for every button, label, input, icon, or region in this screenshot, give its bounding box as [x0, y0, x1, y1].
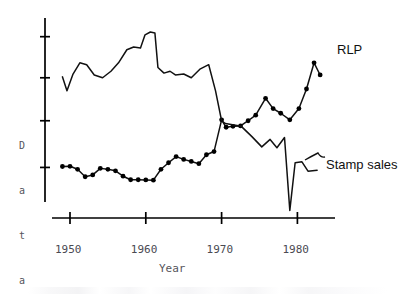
y-axis-title-letter-3: a [14, 273, 30, 288]
y-axis-title-letter-0: D [14, 138, 30, 153]
chart-figure: D a t a 1950 1960 1970 1980 Year RLP Sta… [0, 0, 416, 295]
data-point-0-6 [106, 167, 111, 172]
data-point-0-15 [174, 154, 179, 159]
data-point-0-3 [83, 174, 88, 179]
data-point-0-12 [151, 178, 156, 183]
data-point-0-9 [128, 177, 133, 182]
y-axis-title-letter-2: t [14, 228, 30, 243]
data-point-0-33 [312, 60, 317, 65]
data-point-0-5 [98, 166, 103, 171]
data-point-0-34 [318, 73, 323, 78]
x-tick-label-1950: 1950 [55, 243, 82, 256]
x-tick-label-1980: 1980 [282, 243, 309, 256]
data-point-0-27 [263, 96, 268, 101]
x-axis-title: Year [159, 262, 186, 275]
data-point-0-16 [181, 157, 186, 162]
figure-caption-cropped [28, 287, 388, 294]
data-point-0-1 [68, 164, 73, 169]
data-point-0-32 [304, 87, 309, 92]
y-axis-title: D a t a [14, 108, 30, 295]
data-point-0-18 [196, 161, 201, 166]
x-tick-label-1960: 1960 [131, 243, 158, 256]
data-point-0-14 [166, 160, 171, 165]
data-point-0-0 [60, 164, 65, 169]
data-point-0-17 [189, 159, 194, 164]
data-point-0-8 [121, 174, 126, 179]
data-point-0-22 [224, 125, 229, 130]
data-point-0-25 [246, 118, 251, 123]
data-point-0-20 [212, 149, 217, 154]
x-tick-label-1970: 1970 [207, 243, 234, 256]
data-point-0-30 [287, 117, 292, 122]
data-point-0-10 [136, 177, 141, 182]
data-point-0-2 [75, 167, 80, 172]
data-point-0-4 [90, 173, 95, 178]
data-point-0-13 [159, 167, 164, 172]
data-point-0-28 [271, 106, 276, 111]
y-axis-title-letter-1: a [14, 183, 30, 198]
series-label-stamp-sales: Stamp sales [326, 157, 398, 172]
data-point-0-31 [297, 106, 302, 111]
series-label-rlp: RLP [337, 42, 362, 57]
data-point-0-29 [278, 111, 283, 116]
data-point-0-26 [253, 113, 258, 118]
data-point-0-7 [113, 168, 118, 173]
data-point-0-19 [204, 152, 209, 157]
data-point-0-11 [143, 178, 148, 183]
